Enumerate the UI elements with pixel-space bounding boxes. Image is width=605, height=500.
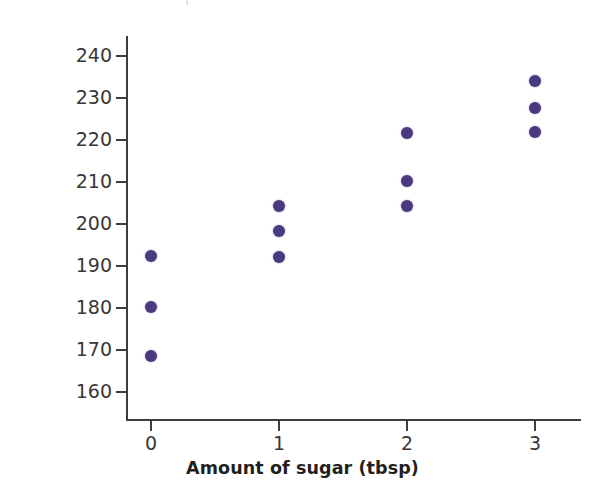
data-point	[145, 350, 157, 362]
y-axis-tick-mark	[116, 55, 127, 57]
y-axis-tick-label: 160	[50, 382, 112, 401]
data-point	[145, 250, 157, 262]
data-point	[273, 251, 285, 263]
x-axis-tick-label: 2	[387, 434, 427, 453]
data-point	[401, 200, 413, 212]
x-axis-tick-mark	[150, 420, 152, 431]
x-axis-tick-label: 0	[131, 434, 171, 453]
data-points-layer	[127, 36, 580, 420]
scan-artifact	[186, 0, 188, 5]
y-axis-tick-mark	[116, 139, 127, 141]
y-axis-tick-label: 190	[50, 256, 112, 275]
x-axis-tick-label: 3	[515, 434, 555, 453]
y-axis-tick-label: 220	[50, 130, 112, 149]
y-axis-tick-mark	[116, 181, 127, 183]
y-axis-tick-label: 180	[50, 298, 112, 317]
y-axis-tick-mark	[116, 391, 127, 393]
x-axis-tick-mark	[406, 420, 408, 431]
x-axis-tick-mark	[278, 420, 280, 431]
data-point	[529, 126, 541, 138]
x-axis-tick-mark	[534, 420, 536, 431]
y-axis-tick-label: 200	[50, 214, 112, 233]
data-point	[529, 102, 541, 114]
y-axis-tick-label: 240	[50, 46, 112, 65]
y-axis-tick-label: 210	[50, 172, 112, 191]
y-axis-tick-mark	[116, 223, 127, 225]
data-point	[401, 175, 413, 187]
y-axis-tick-mark	[116, 307, 127, 309]
scatter-plot-figure: Freshness (h) 16017018019020021022023024…	[0, 0, 605, 500]
y-axis-tick-mark	[116, 97, 127, 99]
data-point	[401, 127, 413, 139]
data-point	[273, 225, 285, 237]
y-axis-tick-mark	[116, 265, 127, 267]
data-point	[145, 301, 157, 313]
x-axis-title: Amount of sugar (tbsp)	[0, 458, 605, 478]
y-axis-tick-mark	[116, 349, 127, 351]
x-axis-tick-label: 1	[259, 434, 299, 453]
data-point	[273, 200, 285, 212]
y-axis-tick-label: 230	[50, 88, 112, 107]
y-axis-tick-label: 170	[50, 340, 112, 359]
data-point	[529, 75, 541, 87]
